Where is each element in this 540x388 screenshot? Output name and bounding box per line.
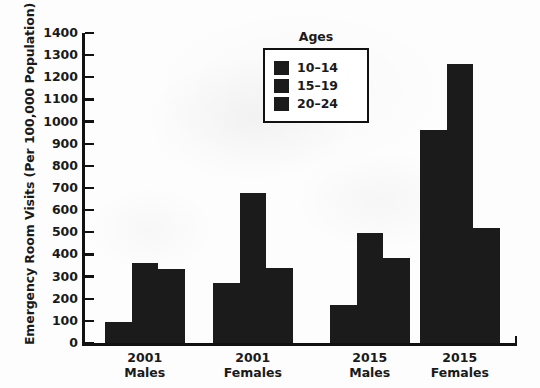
legend-item-15-19: 15–19 bbox=[274, 78, 358, 93]
bar-2001-females-10-14 bbox=[213, 283, 240, 343]
bar-2015-females-20-24 bbox=[473, 228, 500, 343]
legend-swatch-15-19 bbox=[274, 79, 289, 93]
y-tick-1400 bbox=[85, 32, 94, 34]
y-tick-label-1400: 1400 bbox=[18, 25, 78, 40]
bar-2001-females-20-24 bbox=[266, 268, 293, 343]
legend-item-20-24: 20–24 bbox=[274, 96, 358, 111]
y-tick-300 bbox=[85, 275, 94, 277]
y-tick-0 bbox=[85, 342, 94, 344]
y-tick-label-100: 100 bbox=[18, 313, 78, 328]
y-tick-1300 bbox=[85, 54, 94, 56]
legend-item-10-14: 10–14 bbox=[274, 60, 358, 75]
x-group-label-2015-females: 2015Females bbox=[405, 350, 515, 380]
y-tick-label-1300: 1300 bbox=[18, 47, 78, 62]
bar-2015-males-15-19 bbox=[357, 233, 384, 343]
y-tick-400 bbox=[85, 253, 94, 255]
y-tick-1200 bbox=[85, 76, 94, 78]
bar-2015-males-20-24 bbox=[383, 258, 410, 343]
bar-2001-males-10-14 bbox=[105, 322, 132, 343]
legend-label-10-14: 10–14 bbox=[297, 60, 338, 75]
legend-box: 10–1415–1920–24 bbox=[263, 48, 369, 123]
bar-2001-males-15-19 bbox=[132, 263, 159, 343]
y-tick-label-800: 800 bbox=[18, 158, 78, 173]
y-tick-600 bbox=[85, 209, 94, 211]
y-tick-200 bbox=[85, 298, 94, 300]
x-group-label-2001-males: 2001Males bbox=[90, 350, 200, 380]
x-group-label-line-1: Males bbox=[90, 365, 200, 380]
y-tick-label-900: 900 bbox=[18, 136, 78, 151]
y-tick-label-600: 600 bbox=[18, 202, 78, 217]
y-tick-800 bbox=[85, 165, 94, 167]
y-tick-label-500: 500 bbox=[18, 224, 78, 239]
x-axis-line bbox=[82, 343, 517, 346]
y-tick-1100 bbox=[85, 98, 94, 100]
y-tick-label-200: 200 bbox=[18, 291, 78, 306]
y-tick-700 bbox=[85, 187, 94, 189]
bar-2015-males-10-14 bbox=[330, 305, 357, 343]
bar-2001-males-20-24 bbox=[158, 269, 185, 343]
y-tick-label-1000: 1000 bbox=[18, 114, 78, 129]
y-tick-1000 bbox=[85, 120, 94, 122]
x-group-label-line-1: Females bbox=[405, 365, 515, 380]
x-group-label-line-1: Females bbox=[198, 365, 308, 380]
legend-swatch-10-14 bbox=[274, 61, 289, 75]
y-tick-label-700: 700 bbox=[18, 180, 78, 195]
y-tick-100 bbox=[85, 320, 94, 322]
x-group-label-line-0: 2015 bbox=[405, 350, 515, 365]
x-group-label-2001-females: 2001Females bbox=[198, 350, 308, 380]
legend-label-15-19: 15–19 bbox=[297, 78, 338, 93]
x-group-label-line-0: 2001 bbox=[198, 350, 308, 365]
y-tick-label-0: 0 bbox=[18, 335, 78, 350]
y-tick-900 bbox=[85, 143, 94, 145]
y-tick-label-300: 300 bbox=[18, 269, 78, 284]
x-axis-end-tick bbox=[515, 336, 518, 345]
y-tick-label-1200: 1200 bbox=[18, 69, 78, 84]
legend-label-20-24: 20–24 bbox=[297, 96, 338, 111]
y-tick-label-1100: 1100 bbox=[18, 91, 78, 106]
y-tick-label-400: 400 bbox=[18, 246, 78, 261]
bar-2015-females-15-19 bbox=[447, 64, 474, 343]
bar-2001-females-15-19 bbox=[240, 193, 267, 343]
legend-swatch-20-24 bbox=[274, 97, 289, 111]
legend: Ages 10–1415–1920–24 bbox=[263, 29, 369, 123]
y-tick-500 bbox=[85, 231, 94, 233]
legend-title: Ages bbox=[263, 29, 369, 44]
bar-chart: Emergency Room Visits (Per 100,000 Popul… bbox=[0, 0, 540, 388]
x-group-label-line-0: 2001 bbox=[90, 350, 200, 365]
bar-2015-females-10-14 bbox=[420, 130, 447, 343]
